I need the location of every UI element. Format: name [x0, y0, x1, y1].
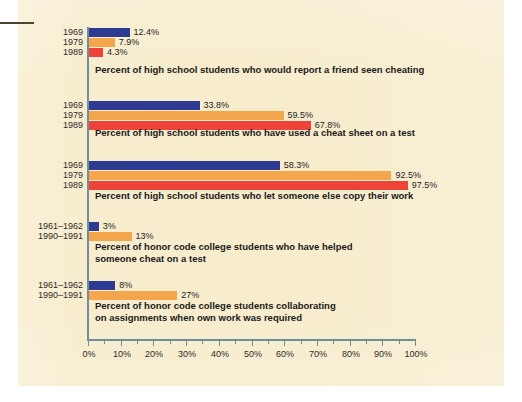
x-tick-major	[284, 341, 285, 346]
bar-value-label: 59.5%	[288, 110, 314, 120]
bar	[89, 101, 200, 110]
bar-value-label: 27%	[181, 290, 199, 300]
bar	[89, 281, 115, 290]
bar	[89, 171, 391, 180]
x-tick-label: 40%	[211, 349, 229, 359]
x-tick-label: 50%	[244, 349, 262, 359]
bar	[89, 222, 99, 231]
bar-value-label: 8%	[119, 280, 132, 290]
x-tick-label: 30%	[178, 349, 196, 359]
x-tick-label: 90%	[374, 349, 392, 359]
bar-value-label: 33.8%	[204, 100, 230, 110]
group-caption: Percent of high school students who have…	[95, 127, 415, 139]
bar	[89, 181, 408, 190]
bar	[89, 111, 284, 120]
group-caption: someone cheat on a test	[95, 253, 206, 265]
horizontal-bar-chart: 196912.4%19797.9%19894.3%Percent of high…	[0, 0, 522, 402]
x-tick-minor	[301, 341, 302, 344]
x-tick-major	[252, 341, 253, 346]
x-tick-minor	[202, 341, 203, 344]
bar-category-label: 1989	[0, 180, 83, 190]
bar-category-label: 1969	[0, 160, 83, 170]
x-tick-label: 0%	[82, 349, 95, 359]
x-tick-minor	[366, 341, 367, 344]
bar	[89, 232, 132, 241]
x-tick-major	[153, 341, 154, 346]
x-tick-major	[350, 341, 351, 346]
x-tick-label: 100%	[404, 349, 427, 359]
x-tick-major	[219, 341, 220, 346]
x-tick-label: 70%	[309, 349, 327, 359]
bar-value-label: 7.9%	[119, 37, 140, 47]
bar-category-label: 1979	[0, 37, 83, 47]
bar	[89, 48, 103, 57]
bar-value-label: 97.5%	[412, 180, 438, 190]
bar-category-label: 1961–1962	[0, 280, 83, 290]
bar-value-label: 3%	[103, 221, 116, 231]
x-tick-minor	[399, 341, 400, 344]
bar-value-label: 58.3%	[284, 160, 310, 170]
bar-category-label: 1961–1962	[0, 221, 83, 231]
bar	[89, 28, 130, 37]
bar-category-label: 1969	[0, 27, 83, 37]
bar-category-label: 1969	[0, 100, 83, 110]
group-caption: on assignments when own work was require…	[95, 312, 302, 324]
x-tick-minor	[268, 341, 269, 344]
group-caption: Percent of honor code college students w…	[95, 241, 353, 253]
x-tick-label: 20%	[145, 349, 163, 359]
group-caption: Percent of honor code college students c…	[95, 300, 336, 312]
bar-value-label: 4.3%	[107, 47, 128, 57]
bar-category-label: 1990–1991	[0, 290, 83, 300]
x-tick-minor	[333, 341, 334, 344]
bar-category-label: 1979	[0, 170, 83, 180]
x-tick-label: 10%	[113, 349, 131, 359]
group-caption: Percent of high school students who let …	[95, 190, 413, 202]
bar	[89, 38, 115, 47]
bar-value-label: 12.4%	[134, 27, 160, 37]
x-tick-major	[382, 341, 383, 346]
bar-value-label: 92.5%	[395, 170, 421, 180]
x-tick-major	[415, 341, 416, 346]
bar	[89, 161, 280, 170]
x-tick-minor	[170, 341, 171, 344]
x-tick-minor	[235, 341, 236, 344]
bar-category-label: 1989	[0, 47, 83, 57]
bar	[89, 291, 177, 300]
x-tick-minor	[104, 341, 105, 344]
x-tick-label: 80%	[342, 349, 360, 359]
x-tick-major	[317, 341, 318, 346]
x-tick-minor	[137, 341, 138, 344]
x-tick-major	[186, 341, 187, 346]
x-tick-major	[121, 341, 122, 346]
bar-category-label: 1979	[0, 110, 83, 120]
bar-category-label: 1990–1991	[0, 231, 83, 241]
x-tick-major	[88, 341, 89, 346]
bar-category-label: 1989	[0, 120, 83, 130]
bar-value-label: 13%	[136, 231, 154, 241]
group-caption: Percent of high school students who woul…	[95, 64, 424, 76]
x-tick-label: 60%	[276, 349, 294, 359]
